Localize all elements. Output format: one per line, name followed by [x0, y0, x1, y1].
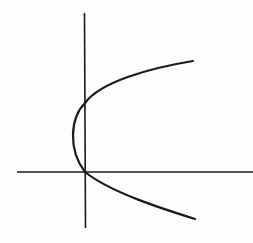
parabola-curve	[73, 61, 195, 219]
y-axis	[85, 13, 86, 228]
plot-canvas	[0, 0, 253, 243]
parabola-plot	[0, 0, 253, 243]
